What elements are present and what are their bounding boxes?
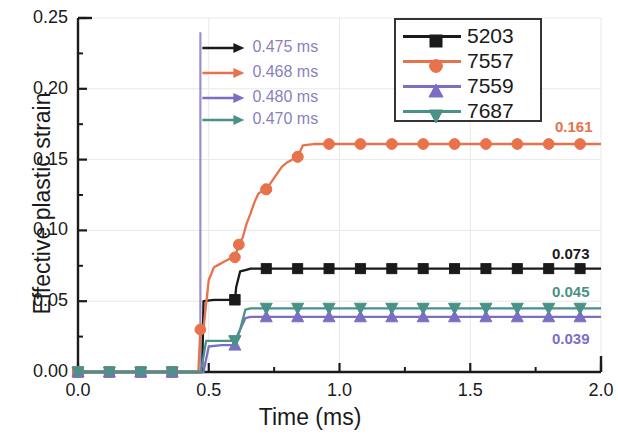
- annotation-label: 0.470 ms: [252, 110, 318, 128]
- legend-item-7687: 7687: [396, 98, 544, 124]
- annotation-arrow-head: [233, 68, 244, 78]
- legend-label-5203: 5203: [467, 24, 514, 48]
- plateau-value-7687: 0.045: [552, 283, 590, 300]
- marker-circle: [430, 60, 443, 73]
- plateau-value-7557: 0.161: [555, 118, 593, 135]
- legend-sample-7559: [401, 75, 463, 97]
- legend-marker-triangle-down-icon: [425, 105, 447, 127]
- legend-sample-7557: [401, 50, 463, 72]
- legend: 5203755775597687: [394, 18, 542, 122]
- legend-sample-7687: [401, 100, 463, 122]
- annotation-label: 0.475 ms: [252, 38, 318, 56]
- annotation-arrow-head: [233, 115, 244, 125]
- plateau-value-7559: 0.039: [552, 330, 590, 347]
- marker-square: [430, 35, 442, 47]
- marker-triangle-down: [429, 110, 443, 123]
- annotation-label: 0.480 ms: [252, 88, 318, 106]
- annotation-arrow-head: [233, 43, 244, 53]
- legend-item-5203: 5203: [396, 23, 544, 49]
- annotation-label: 0.468 ms: [252, 63, 318, 81]
- legend-label-7687: 7687: [467, 99, 514, 123]
- legend-label-7557: 7557: [467, 49, 514, 73]
- legend-sample-5203: [401, 25, 463, 47]
- plateau-value-5203: 0.073: [552, 245, 590, 262]
- marker-triangle-up: [429, 84, 443, 97]
- legend-label-7559: 7559: [467, 74, 514, 98]
- legend-item-7557: 7557: [396, 48, 544, 74]
- legend-item-7559: 7559: [396, 73, 544, 99]
- annotation-arrow-head: [233, 93, 244, 103]
